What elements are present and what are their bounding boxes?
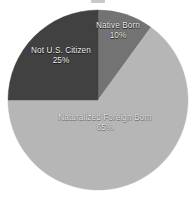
pie-slice-not-u-s-citizen — [8, 10, 98, 100]
pie-chart-canvas — [0, 0, 195, 202]
pie-chart-figure: Native Born 10% Not U.S. Citizen 25% Nat… — [0, 0, 195, 202]
pie-slice-group — [8, 10, 188, 190]
